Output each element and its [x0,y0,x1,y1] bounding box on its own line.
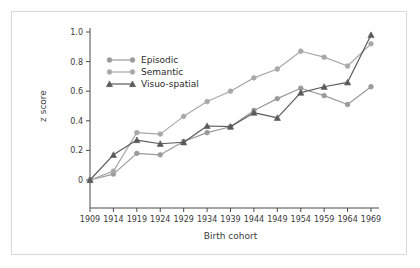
data-point [111,169,116,174]
series-semantic [88,41,374,182]
x-tick-label: 1954 [291,215,311,224]
legend-marker [107,58,112,63]
data-point [369,41,374,46]
data-point [158,152,163,157]
data-point [110,152,116,158]
data-point [275,96,280,101]
x-tick-label: 1919 [127,215,147,224]
y-tick-label: 0.2 [70,146,83,155]
data-point [344,79,350,85]
data-point [345,64,350,69]
data-point [298,49,303,54]
data-point [134,130,139,135]
x-axis-title: Birth cohort [204,231,258,241]
data-point [322,55,327,60]
y-axis-title: z score [38,90,48,122]
series-episodic [88,84,374,182]
legend-label: Episodic [141,55,178,65]
y-tick-label: 0.4 [70,117,83,126]
x-tick-label: 1959 [314,215,334,224]
x-tick-label: 1924 [150,215,170,224]
data-point [158,132,163,137]
legend-marker [130,70,135,75]
data-point [252,75,257,80]
x-tick-label: 1949 [267,215,287,224]
data-point [275,67,280,72]
data-point [345,102,350,107]
legend-item[interactable]: Semantic [107,67,183,77]
x-tick-label: 1944 [244,215,264,224]
y-tick-label: 0 [78,176,83,185]
x-tick-label: 1939 [220,215,240,224]
y-tick-label: 0.6 [70,87,83,96]
data-point [322,93,327,98]
x-tick-label: 1934 [197,215,217,224]
series-line [90,87,371,180]
legend-marker [130,58,135,63]
data-point [205,130,210,135]
legend-label: Semantic [141,67,183,77]
x-tick-label: 1929 [173,215,193,224]
y-tick-label: 0.8 [70,58,83,67]
y-tick-label: 1.0 [70,28,83,37]
data-point [228,89,233,94]
x-tick-label: 1969 [361,215,381,224]
data-point [368,32,374,38]
legend: EpisodicSemanticVisuo-spatial [106,55,198,89]
legend-item[interactable]: Episodic [107,55,178,65]
data-point [134,151,139,156]
legend-label: Visuo-spatial [141,79,199,89]
line-chart: 00.20.40.60.81.0z score19091914191919241… [12,12,406,254]
legend-item[interactable]: Visuo-spatial [106,79,198,89]
data-point [181,114,186,119]
chart-page: 00.20.40.60.81.0z score19091914191919241… [0,0,420,268]
data-point [205,99,210,104]
series-line [90,44,371,180]
figure-frame: 00.20.40.60.81.0z score19091914191919241… [11,11,407,255]
x-tick-label: 1909 [80,215,100,224]
data-point [369,84,374,89]
x-tick-label: 1914 [103,215,123,224]
x-tick-label: 1964 [337,215,357,224]
legend-marker [107,70,112,75]
